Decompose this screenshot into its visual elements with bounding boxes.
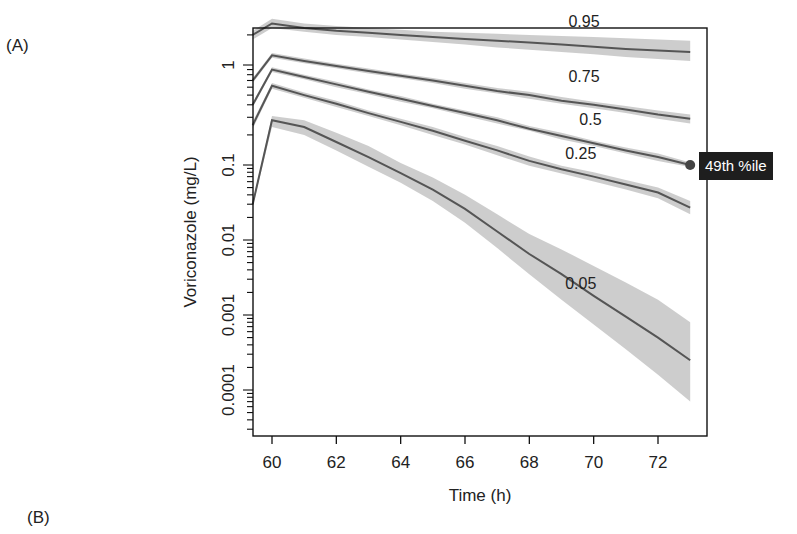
x-tick-label-68: 68 xyxy=(520,453,539,472)
label-0.75: 0.75 xyxy=(568,68,599,85)
x-tick-label-60: 60 xyxy=(263,453,282,472)
y-axis-title: Voriconazole (mg/L) xyxy=(181,156,200,307)
label-0.25: 0.25 xyxy=(565,145,596,162)
percentile-chart: 0.950.750.50.250.05 60626466687072 10.10… xyxy=(0,0,797,534)
x-axis: 60626466687072 xyxy=(263,436,668,472)
y-tick-label-1: 1 xyxy=(219,60,238,69)
selected-point-marker[interactable] xyxy=(685,160,695,170)
y-axis: 10.10.010.0010.0001 xyxy=(219,35,253,429)
label-0.05: 0.05 xyxy=(565,275,596,292)
y-tick-label-0.1: 0.1 xyxy=(219,153,238,177)
x-tick-label-66: 66 xyxy=(456,453,475,472)
label-0.5: 0.5 xyxy=(579,111,601,128)
y-tick-label-0.0001: 0.0001 xyxy=(219,364,238,416)
percentile-labels: 0.950.750.50.250.05 xyxy=(565,13,601,292)
x-tick-label-64: 64 xyxy=(391,453,410,472)
x-tick-label-70: 70 xyxy=(584,453,603,472)
y-tick-label-0.01: 0.01 xyxy=(219,223,238,256)
x-tick-label-72: 72 xyxy=(649,453,668,472)
y-tick-label-0.001: 0.001 xyxy=(219,294,238,337)
band-0.5 xyxy=(253,67,691,167)
band-0.05 xyxy=(253,116,691,402)
x-tick-label-62: 62 xyxy=(327,453,346,472)
confidence-bands xyxy=(253,19,691,402)
x-axis-title: Time (h) xyxy=(449,486,512,505)
percentile-tooltip: 49th %ile xyxy=(699,152,773,180)
